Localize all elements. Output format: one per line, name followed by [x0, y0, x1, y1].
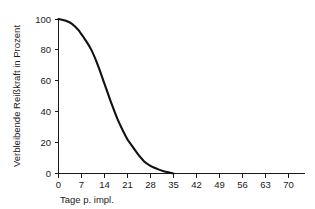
- y-tick-label-80: 80: [40, 44, 51, 55]
- x-tick-label-21: 21: [122, 179, 133, 190]
- x-tick-label-0: 0: [56, 179, 61, 190]
- y-tick-label-0: 0: [46, 168, 51, 179]
- x-tick-label-63: 63: [260, 179, 271, 190]
- x-tick-label-7: 7: [79, 179, 84, 190]
- y-tick-label-100: 100: [35, 14, 51, 25]
- x-tick-label-28: 28: [145, 179, 156, 190]
- x-axis-title: Tage p. impl.: [60, 194, 114, 205]
- y-tick-label-20: 20: [40, 137, 51, 148]
- y-tick-label-40: 40: [40, 106, 51, 117]
- x-tick-label-70: 70: [283, 179, 294, 190]
- x-tick-label-49: 49: [214, 179, 225, 190]
- x-tick-label-14: 14: [99, 179, 110, 190]
- y-tick-label-60: 60: [40, 75, 51, 86]
- chart-container: 0 20 40 60 80 100 0 7 14 21 28: [0, 0, 315, 209]
- y-axis-title: Verbleibende Reißkraft in Prozent: [11, 25, 22, 167]
- x-tick-label-56: 56: [237, 179, 248, 190]
- tensile-strength-decay-chart: 0 20 40 60 80 100 0 7 14 21 28: [0, 0, 315, 209]
- x-tick-label-35: 35: [168, 179, 179, 190]
- x-tick-label-42: 42: [191, 179, 202, 190]
